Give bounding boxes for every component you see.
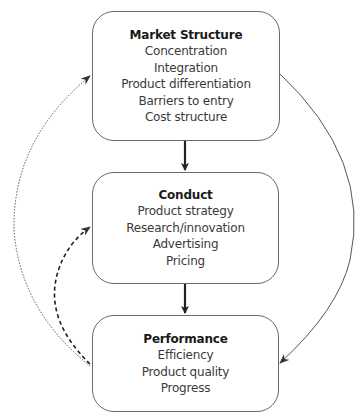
node-item: Advertising — [153, 236, 219, 253]
node-item: Cost structure — [145, 109, 227, 126]
node-item: Concentration — [145, 43, 227, 60]
node-item: Product differentiation — [121, 76, 251, 93]
node-item: Efficiency — [158, 347, 214, 364]
node-performance: Performance Efficiency Product quality P… — [92, 315, 279, 412]
node-item: Research/innovation — [126, 220, 245, 237]
node-item: Integration — [154, 60, 218, 77]
node-item: Pricing — [166, 253, 205, 270]
arrow-structure-to-performance — [279, 73, 354, 363]
node-title: Performance — [143, 331, 227, 348]
node-conduct: Conduct Product strategy Research/innova… — [92, 172, 279, 284]
node-item: Product quality — [142, 364, 229, 381]
node-market-structure: Market Structure Concentration Integrati… — [92, 11, 280, 141]
arrow-performance-to-conduct — [54, 227, 90, 364]
node-title: Market Structure — [130, 27, 243, 44]
node-item: Product strategy — [137, 203, 233, 220]
node-item: Progress — [161, 380, 211, 397]
node-item: Barriers to entry — [138, 93, 233, 110]
node-title: Conduct — [158, 187, 212, 204]
arrow-performance-to-structure — [14, 76, 90, 366]
